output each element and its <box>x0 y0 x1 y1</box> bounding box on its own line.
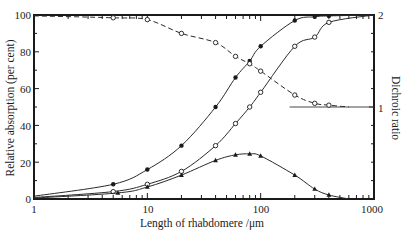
data-point-filled-circle <box>145 167 149 171</box>
data-point-open-circle <box>293 44 297 48</box>
data-point-filled-circle <box>313 15 317 19</box>
y2-axis-title: Dichroic ratio <box>390 76 402 140</box>
data-point-open-circle <box>247 105 251 109</box>
x-tick-1000: 1000 <box>361 203 384 215</box>
x-tick-10: 10 <box>143 203 155 215</box>
y-tick-100: 100 <box>15 9 32 21</box>
y-tick-40: 40 <box>20 120 32 132</box>
x-tick-labels: 1 10 100 1000 <box>31 203 383 215</box>
y-tick-20: 20 <box>20 157 32 169</box>
series-line <box>34 16 349 107</box>
y-tick-labels: 0 20 40 60 80 100 <box>15 9 32 205</box>
data-point-filled-circle <box>258 44 262 48</box>
data-point-open-circle <box>258 69 262 73</box>
y-tick-60: 60 <box>20 83 32 95</box>
data-point-open-circle <box>179 31 183 35</box>
data-point-open-circle <box>111 16 115 20</box>
y2-tick-1: 1 <box>378 102 384 114</box>
series-line <box>34 15 374 198</box>
series-layer <box>34 14 374 199</box>
data-point-triangle <box>312 186 317 190</box>
data-point-open-circle <box>327 20 331 24</box>
data-point-filled-circle <box>293 18 297 22</box>
data-point-open-circle <box>145 17 149 21</box>
x-tick-1: 1 <box>31 203 37 215</box>
data-point-open-circle <box>233 54 237 58</box>
series-0 <box>34 14 374 196</box>
chart: 1 10 100 1000 0 20 40 60 80 100 1 2 Leng… <box>0 0 402 232</box>
y-tick-80: 80 <box>20 46 32 58</box>
data-point-filled-circle <box>233 75 237 79</box>
data-point-open-circle <box>258 90 262 94</box>
data-point-open-circle <box>213 40 217 44</box>
data-point-open-circle <box>293 93 297 97</box>
series-line <box>34 15 374 196</box>
data-point-triangle <box>292 172 297 176</box>
y2-tick-labels: 1 2 <box>378 9 384 114</box>
data-point-filled-circle <box>213 105 217 109</box>
series-2 <box>34 151 349 199</box>
data-point-open-circle <box>233 121 237 125</box>
data-point-open-circle <box>313 101 317 105</box>
y2-tick-2: 2 <box>378 9 384 21</box>
data-point-filled-circle <box>179 143 183 147</box>
x-axis-title: Length of rhabdomere /μm <box>140 217 264 230</box>
y-tick-0: 0 <box>26 193 32 205</box>
x-tick-100: 100 <box>253 203 270 215</box>
data-point-filled-circle <box>327 14 331 18</box>
data-point-open-circle <box>213 143 217 147</box>
series-1 <box>34 15 374 198</box>
data-point-filled-circle <box>111 182 115 186</box>
series-3 <box>34 16 349 108</box>
y-axis-title: Relative absorption (per cent) <box>4 39 17 176</box>
series-line <box>34 154 349 199</box>
data-point-open-circle <box>247 62 251 66</box>
data-point-open-circle <box>313 35 317 39</box>
data-point-open-circle <box>327 103 331 107</box>
